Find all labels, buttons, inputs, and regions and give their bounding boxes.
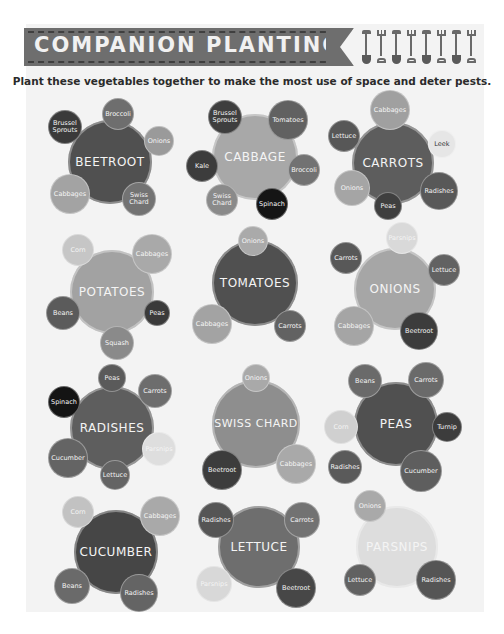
companion-bubble: Cabbages xyxy=(276,444,316,484)
cluster-radishes: RADISHES Peas Carrots Spinach Parsnips C… xyxy=(40,358,190,488)
companion-bubble: Kale xyxy=(186,150,218,182)
companion-bubble: Swiss Chard xyxy=(206,184,238,216)
companion-bubble: Cabbages xyxy=(132,234,172,274)
companion-bubble: Parsnips xyxy=(196,566,232,602)
cluster-cabbage: CABBAGE Brussel Sprouts Tomatoes Kale Br… xyxy=(180,92,330,222)
companion-bubble: Tomatoes xyxy=(268,100,308,140)
companion-bubble: Radishes xyxy=(420,172,458,210)
companion-bubble: Spinach xyxy=(48,386,80,418)
companion-bubble: Cabbages xyxy=(140,496,180,536)
fork-icon xyxy=(467,30,476,64)
companion-bubble: Lettuce xyxy=(100,460,130,490)
companion-bubble: Lettuce xyxy=(328,120,360,152)
banner-stitch-bottom xyxy=(28,61,346,63)
companion-bubble: Cabbages xyxy=(192,304,232,344)
banner-notch xyxy=(340,28,354,66)
shovel-icon xyxy=(422,30,431,64)
cluster-potatoes: POTATOES Corn Cabbages Beans Peas Squash xyxy=(40,222,190,352)
cluster-swiss-chard: SWISS CHARD Onions Beetroot Cabbages xyxy=(180,358,330,488)
companion-bubble: Beetroot xyxy=(276,568,316,608)
companion-bubble: Beetroot xyxy=(202,450,242,490)
companion-bubble: Broccoli xyxy=(288,154,320,186)
page-title: COMPANION PLANTING xyxy=(34,33,342,57)
companion-bubble: Brussel Sprouts xyxy=(48,110,82,144)
companion-bubble: Brussel Sprouts xyxy=(208,100,242,134)
companion-bubble: Beans xyxy=(46,296,80,330)
companion-bubble: Onions xyxy=(334,170,370,206)
companion-bubble: Onions xyxy=(242,364,270,392)
cluster-peas: PEAS Beans Carrots Corn Turnip Radishes … xyxy=(320,358,470,488)
fork-icon xyxy=(407,30,416,64)
companion-bubble: Corn xyxy=(62,234,94,266)
companion-bubble: Cucumber xyxy=(400,450,442,492)
companion-bubble: Radishes xyxy=(198,502,234,538)
companion-bubble: Cabbages xyxy=(334,306,374,346)
companion-bubble: Corn xyxy=(62,496,94,528)
companion-bubble: Broccoli xyxy=(102,98,134,130)
companion-bubble: Lettuce xyxy=(344,564,376,596)
companion-bubble: Lettuce xyxy=(428,254,460,286)
fork-icon xyxy=(377,30,386,64)
shovel-icon xyxy=(452,30,461,64)
companion-bubble: Spinach xyxy=(256,188,288,220)
companion-bubble: Corn xyxy=(324,410,358,444)
companion-bubble: Squash xyxy=(100,326,134,360)
fork-icon xyxy=(437,30,446,64)
companion-bubble: Radishes xyxy=(120,574,158,612)
companion-bubble: Carrots xyxy=(408,362,444,398)
companion-bubble: Turnip xyxy=(432,412,462,442)
cluster-tomatoes: TOMATOES Onions Cabbages Carrots xyxy=(180,222,330,352)
cluster-beetroot: BEETROOT Brussel Sprouts Broccoli Onions… xyxy=(40,92,190,222)
cluster-carrots: CARROTS Cabbages Lettuce Leek Onions Pea… xyxy=(320,84,470,214)
companion-bubble: Carrots xyxy=(330,242,362,274)
companion-bubble: Cabbages xyxy=(370,90,410,130)
shovel-icon xyxy=(362,30,371,64)
companion-bubble: Onions xyxy=(238,226,268,256)
companion-bubble: Onions xyxy=(144,126,174,156)
companion-bubble: Carrots xyxy=(274,310,306,342)
cluster-parsnips: PARSNIPS Onions Lettuce Radishes xyxy=(320,488,470,618)
cluster-lettuce: LETTUCE Radishes Carrots Parsnips Beetro… xyxy=(180,488,330,618)
shovel-icon xyxy=(392,30,401,64)
companion-bubble: Carrots xyxy=(138,374,172,408)
companion-bubble: Radishes xyxy=(328,450,362,484)
companion-bubble: Leek xyxy=(428,130,456,158)
companion-bubble: Cabbages xyxy=(50,174,90,214)
companion-bubble: Beetroot xyxy=(400,312,438,350)
companion-bubble: Cucumber xyxy=(48,438,88,478)
cluster-onions: ONIONS Parsnips Carrots Lettuce Cabbages… xyxy=(320,218,470,348)
companion-bubble: Onions xyxy=(354,490,386,522)
companion-bubble: Beans xyxy=(348,364,382,398)
cluster-cucumber: CUCUMBER Corn Cabbages Beans Radishes xyxy=(40,488,190,618)
title-banner: COMPANION PLANTING xyxy=(24,28,346,66)
garden-tools-row xyxy=(362,30,476,64)
companion-bubble: Peas xyxy=(374,192,402,220)
companion-bubble: Carrots xyxy=(284,502,320,538)
companion-bubble: Peas xyxy=(98,364,126,392)
companion-bubble: Parsnips xyxy=(386,222,418,254)
companion-bubble: Peas xyxy=(144,300,170,326)
companion-bubble: Beans xyxy=(54,568,90,604)
companion-bubble: Swiss Chard xyxy=(122,182,156,216)
companion-bubble: Parsnips xyxy=(142,432,176,466)
companion-bubble: Radishes xyxy=(416,560,456,600)
